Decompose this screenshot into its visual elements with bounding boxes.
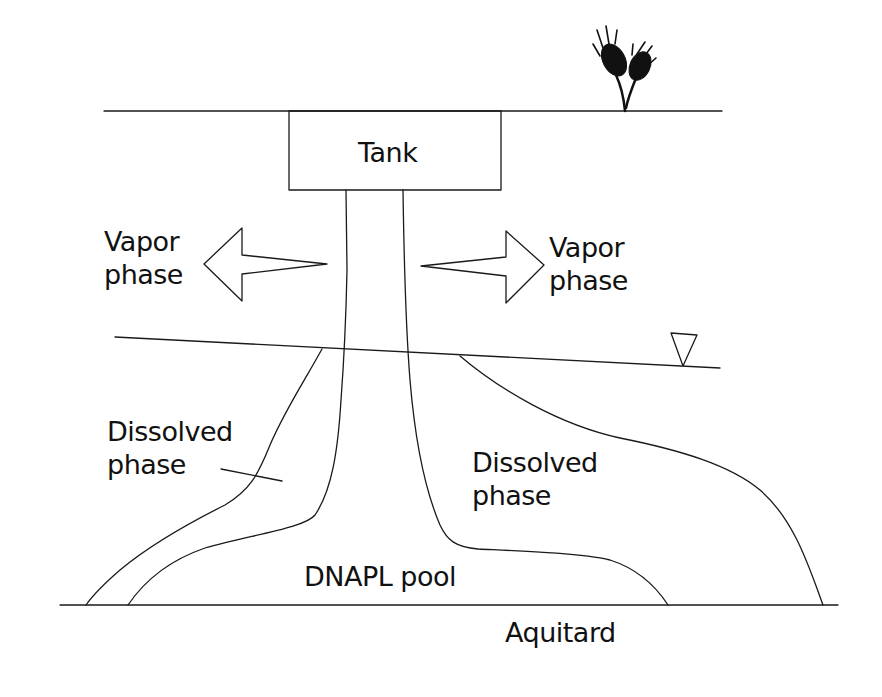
plant-icon: [593, 26, 656, 111]
dissolved-phase-right-line1: Dissolved: [472, 446, 598, 479]
dissolved-phase-right-line2: phase: [472, 479, 598, 512]
water-table-icon: [671, 333, 697, 366]
vapor-arrow-left: [204, 228, 327, 301]
dissolved-phase-left-label: Dissolved phase: [107, 415, 233, 481]
vapor-phase-right-label: Vapor phase: [549, 231, 628, 297]
water-table-line: [115, 337, 720, 368]
dissolved-phase-left-line1: Dissolved: [107, 415, 233, 448]
vapor-phase-left-label: Vapor phase: [104, 225, 183, 291]
dnapl-pool-label: DNAPL pool: [304, 561, 456, 593]
vapor-phase-right-line2: phase: [549, 264, 628, 297]
tank-label: Tank: [358, 137, 417, 169]
vapor-arrow-right: [421, 231, 544, 303]
vapor-phase-right-line1: Vapor: [549, 231, 628, 264]
dissolved-phase-right-label: Dissolved phase: [472, 446, 598, 512]
aquitard-label: Aquitard: [505, 617, 616, 649]
dnapl-body-right-boundary: [403, 190, 668, 605]
vapor-phase-left-line1: Vapor: [104, 225, 183, 258]
vapor-phase-left-line2: phase: [104, 258, 183, 291]
dissolved-phase-left-line2: phase: [107, 448, 233, 481]
